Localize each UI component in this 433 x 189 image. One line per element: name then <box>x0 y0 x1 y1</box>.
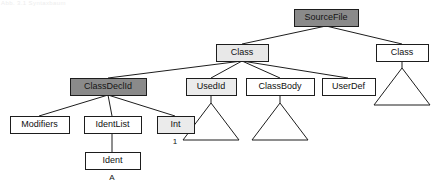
tree-node-classdeclid[interactable]: ClassDeclId <box>71 79 147 96</box>
subtree-triangle <box>252 103 308 140</box>
tree-edge-classdeclid-to-identlist <box>108 95 112 116</box>
subtree-triangle <box>374 68 430 105</box>
tree-edge-class-left-to-classdeclid <box>108 61 242 78</box>
tree-nodes-layer: SourceFileClassClassClassDeclIdUsedIdCla… <box>11 10 429 170</box>
tree-node-usedid[interactable]: UsedId <box>187 79 237 96</box>
node-label-usedid: UsedId <box>197 81 226 91</box>
syntax-tree-figure: Abb. 3.1 Syntaxbaum SourceFileClassClass… <box>0 0 433 189</box>
node-label-identlist: IdentList <box>95 119 130 129</box>
tree-edge-class-left-to-usedid <box>211 61 242 78</box>
tree-edge-classdeclid-to-modifiers <box>39 95 108 116</box>
tree-node-sourcefile[interactable]: SourceFile <box>295 10 359 27</box>
node-label-classdeclid: ClassDeclId <box>84 81 132 91</box>
tree-node-ident[interactable]: Ident <box>86 153 141 170</box>
node-label-int: Int <box>170 119 181 129</box>
node-label-classbody: ClassBody <box>258 81 302 91</box>
tree-node-userdef[interactable]: UserDef <box>323 79 376 96</box>
tree-canvas: SourceFileClassClassClassDeclIdUsedIdCla… <box>0 0 433 189</box>
tree-node-int[interactable]: Int <box>158 117 195 134</box>
node-label-ident: Ident <box>102 155 123 165</box>
tree-edge-classdeclid-to-int <box>108 95 175 116</box>
leaf-value-int-value: 1 <box>173 137 178 146</box>
tree-node-classbody[interactable]: ClassBody <box>247 79 315 96</box>
tree-node-class-left[interactable]: Class <box>217 45 269 62</box>
node-label-class-left: Class <box>231 47 254 57</box>
tree-node-modifiers[interactable]: Modifiers <box>11 117 70 134</box>
node-label-modifiers: Modifiers <box>21 119 58 129</box>
tree-edge-sourcefile-to-class-left <box>242 26 326 44</box>
leaf-value-ident-value: A <box>109 173 115 182</box>
node-label-sourcefile: SourceFile <box>304 12 347 22</box>
node-label-userdef: UserDef <box>332 81 366 91</box>
tree-node-identlist[interactable]: IdentList <box>85 117 142 134</box>
tree-node-class-right[interactable]: Class <box>377 45 429 62</box>
node-label-class-right: Class <box>391 47 414 57</box>
tree-edge-sourcefile-to-class-right <box>326 26 402 44</box>
tree-edge-class-left-to-userdef <box>242 61 348 78</box>
